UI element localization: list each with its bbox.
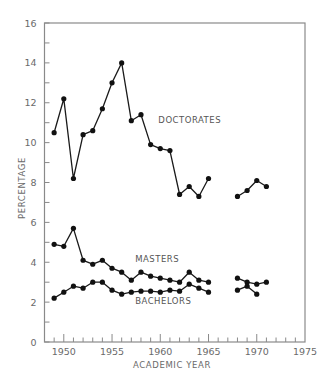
y-tick-label: 2	[30, 297, 36, 308]
y-tick-label: 6	[30, 217, 36, 228]
y-tick-label: 12	[24, 97, 36, 108]
data-point	[177, 192, 182, 197]
line-chart: 0246810121416 195019551960196519701975 D…	[0, 0, 330, 386]
series-group	[52, 60, 269, 300]
data-point	[196, 194, 201, 199]
x-tick-label: 1965	[196, 346, 220, 357]
data-point	[109, 288, 114, 293]
data-point	[71, 284, 76, 289]
data-point	[196, 278, 201, 283]
y-tick-label: 16	[24, 18, 36, 29]
data-point	[61, 290, 66, 295]
data-point	[80, 258, 85, 263]
y-tick-label: 8	[30, 177, 36, 188]
data-point	[158, 290, 163, 295]
y-axis: 0246810121416	[24, 18, 49, 348]
data-point	[158, 146, 163, 151]
data-point	[129, 278, 134, 283]
series-doctorates	[52, 60, 269, 199]
data-point	[109, 266, 114, 271]
data-point	[129, 290, 134, 295]
x-tick-label: 1955	[100, 346, 124, 357]
data-point	[264, 280, 269, 285]
series-line	[238, 278, 267, 284]
series-labels: DOCTORATESMASTERSBACHELORS	[135, 115, 221, 306]
x-tick-label: 1975	[293, 346, 317, 357]
data-point	[254, 282, 259, 287]
data-point	[80, 286, 85, 291]
data-point	[177, 289, 182, 294]
x-tick-label: 1970	[245, 346, 269, 357]
data-point	[206, 290, 211, 295]
data-point	[119, 60, 124, 65]
data-point	[52, 242, 57, 247]
data-point	[254, 178, 259, 183]
x-tick-label: 1950	[52, 346, 76, 357]
data-point	[80, 132, 85, 137]
data-point	[177, 280, 182, 285]
data-point	[100, 280, 105, 285]
series-label-bachelors: BACHELORS	[135, 296, 191, 306]
data-point	[90, 280, 95, 285]
plot-border	[45, 23, 306, 342]
y-tick-label: 14	[24, 57, 36, 68]
data-point	[206, 280, 211, 285]
data-point	[71, 176, 76, 181]
data-point	[61, 244, 66, 249]
data-point	[196, 286, 201, 291]
data-point	[90, 262, 95, 267]
data-point	[52, 130, 57, 135]
data-point	[264, 184, 269, 189]
data-point	[119, 270, 124, 275]
data-point	[52, 296, 57, 301]
data-point	[90, 128, 95, 133]
x-tick-label: 1960	[148, 346, 172, 357]
data-point	[119, 292, 124, 297]
data-point	[245, 284, 250, 289]
data-point	[167, 288, 172, 293]
data-point	[148, 289, 153, 294]
data-point	[138, 112, 143, 117]
data-point	[148, 142, 153, 147]
x-axis: 195019551960196519701975	[52, 334, 317, 357]
data-point	[187, 184, 192, 189]
data-point	[167, 278, 172, 283]
y-tick-label: 4	[30, 257, 36, 268]
data-point	[100, 258, 105, 263]
data-point	[100, 106, 105, 111]
series-line	[54, 63, 208, 197]
y-tick-label: 10	[24, 137, 36, 148]
data-point	[71, 226, 76, 231]
y-tick-label: 0	[30, 337, 36, 348]
data-point	[187, 270, 192, 275]
y-axis-title: PERCENTAGE	[17, 157, 27, 219]
data-point	[109, 80, 114, 85]
data-point	[235, 194, 240, 199]
data-point	[138, 270, 143, 275]
data-point	[187, 282, 192, 287]
series-line	[238, 181, 267, 197]
data-point	[235, 276, 240, 281]
data-point	[148, 274, 153, 279]
data-point	[138, 289, 143, 294]
plot-frame	[45, 23, 306, 342]
data-point	[235, 288, 240, 293]
data-point	[61, 96, 66, 101]
series-label-masters: MASTERS	[135, 254, 179, 264]
data-point	[206, 176, 211, 181]
data-point	[254, 292, 259, 297]
data-point	[129, 118, 134, 123]
data-point	[158, 276, 163, 281]
data-point	[167, 148, 172, 153]
series-line	[54, 228, 208, 282]
data-point	[245, 188, 250, 193]
x-axis-title: ACADEMIC YEAR	[133, 360, 211, 370]
series-label-doctorates: DOCTORATES	[158, 115, 221, 125]
